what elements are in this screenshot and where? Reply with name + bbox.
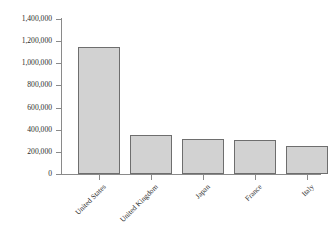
y-axis-tick: [56, 130, 61, 131]
bar-japan: [182, 139, 224, 174]
y-axis-tick-label: 1,400,000: [0, 15, 52, 23]
plot-area: 0 200,000 400,000 600,000 800,000 1,000,…: [0, 0, 330, 234]
x-axis-tick: [99, 175, 100, 180]
y-axis-tick-label: 400,000: [0, 126, 52, 134]
y-axis-tick-label: 800,000: [0, 81, 52, 89]
x-axis-line: [61, 174, 321, 175]
y-axis-tick: [56, 63, 61, 64]
y-axis-tick: [56, 41, 61, 42]
y-axis-tick-label: 200,000: [0, 148, 52, 156]
bar-france: [234, 140, 276, 174]
y-axis-tick-label: 1,000,000: [0, 59, 52, 67]
bar-chart: 0 200,000 400,000 600,000 800,000 1,000,…: [0, 0, 330, 234]
y-axis-tick-label: 600,000: [0, 104, 52, 112]
bar-italy: [286, 146, 328, 174]
bar-united-kingdom: [130, 135, 172, 174]
y-axis-tick: [56, 19, 61, 20]
y-axis-tick: [56, 174, 61, 175]
y-axis-line: [61, 18, 62, 175]
y-axis-tick: [56, 152, 61, 153]
x-axis-tick: [307, 175, 308, 180]
x-axis-label-united-states: United States: [0, 183, 108, 234]
x-axis-tick: [203, 175, 204, 180]
y-axis-tick-label: 0: [0, 170, 52, 178]
y-axis-tick: [56, 85, 61, 86]
y-axis-tick-label: 1,200,000: [0, 37, 52, 45]
x-axis-tick: [151, 175, 152, 180]
bar-united-states: [78, 47, 120, 174]
x-axis-tick: [255, 175, 256, 180]
y-axis-tick: [56, 108, 61, 109]
